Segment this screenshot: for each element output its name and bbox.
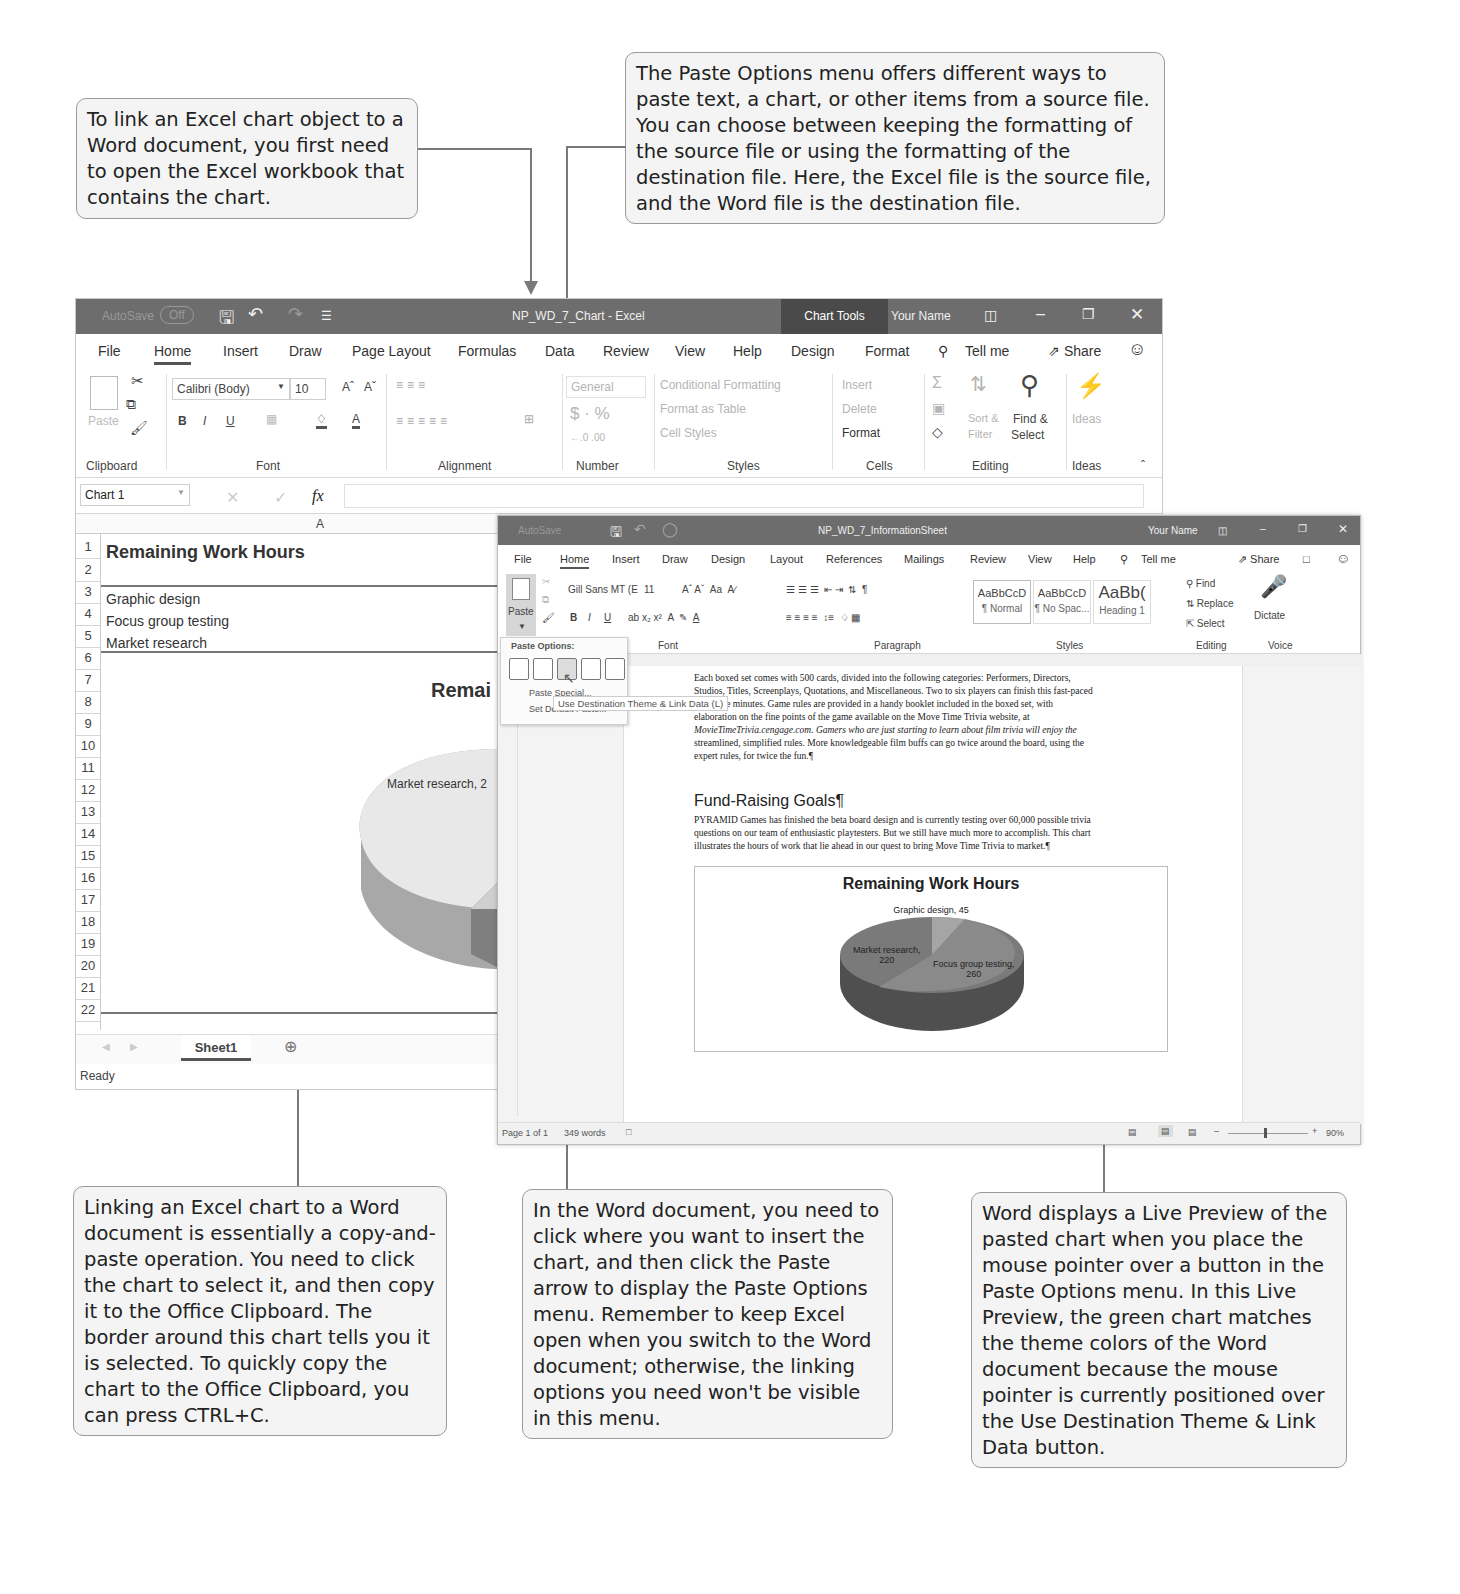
italic-icon[interactable]: I [588, 612, 591, 623]
row-header[interactable]: 4 [76, 606, 100, 621]
number-format-dropdown[interactable]: General [566, 376, 646, 398]
tab-mailings[interactable]: Mailings [904, 553, 944, 565]
select-button[interactable]: ⇱ Select [1186, 618, 1225, 629]
autosave-toggle[interactable]: Off [160, 306, 194, 324]
ribbon-display-icon[interactable]: ◫ [984, 307, 997, 323]
save-icon[interactable]: 🖫 [610, 521, 622, 545]
tab-file[interactable]: File [98, 343, 121, 359]
sort-filter-button[interactable]: Sort & [968, 412, 999, 424]
redo-icon[interactable]: ↷ [288, 303, 303, 325]
name-box[interactable]: Chart 1▼ [80, 484, 190, 506]
format-cells-button[interactable]: Format [842, 426, 880, 440]
row-header[interactable]: 22 [76, 1002, 100, 1017]
insert-function-icon[interactable]: fx [312, 487, 324, 505]
tab-design[interactable]: Design [711, 553, 745, 565]
underline-icon[interactable]: U [226, 414, 235, 428]
decrease-font-icon[interactable]: Aˇ [364, 380, 376, 394]
cell-a3[interactable]: Graphic design [106, 591, 200, 607]
tab-draw[interactable]: Draw [662, 553, 688, 565]
tab-design[interactable]: Design [791, 343, 835, 359]
customize-qat-icon[interactable]: ☰ [321, 309, 332, 323]
row-header[interactable]: 7 [76, 672, 100, 687]
sort-filter-button-2[interactable]: Filter [968, 428, 992, 440]
row-header[interactable]: 12 [76, 782, 100, 797]
sheet-tab-sheet1[interactable]: Sheet1 [181, 1035, 251, 1061]
fill-icon[interactable]: ▣ [932, 400, 945, 416]
row-header[interactable]: 17 [76, 892, 100, 907]
tab-review[interactable]: Review [970, 553, 1006, 565]
borders-icon[interactable]: ▦ [266, 412, 277, 426]
style-no-spacing[interactable]: AaBbCcD¶ No Spac... [1033, 580, 1091, 624]
style-heading-1[interactable]: AaBb(Heading 1 [1093, 580, 1151, 624]
comments-icon[interactable]: □ [1303, 553, 1310, 565]
keep-source-formatting-icon[interactable] [509, 658, 529, 680]
smiley-feedback-icon[interactable]: ☺ [1128, 339, 1146, 360]
bold-icon[interactable]: B [570, 612, 577, 623]
tab-home[interactable]: Home [154, 343, 191, 365]
undo-icon[interactable]: ↶ [634, 521, 646, 537]
row-header[interactable]: 1 [76, 539, 100, 554]
tab-view[interactable]: View [1028, 553, 1052, 565]
read-mode-icon[interactable]: ▤ [1128, 1127, 1137, 1137]
tell-me-box[interactable]: Tell me [965, 343, 1009, 359]
paste-icon[interactable] [90, 376, 118, 410]
font-color-icon[interactable]: A [352, 412, 360, 429]
formula-input[interactable] [344, 484, 1144, 508]
zoom-slider-thumb[interactable] [1264, 1128, 1267, 1138]
tab-insert[interactable]: Insert [223, 343, 258, 359]
close-icon[interactable]: ✕ [1338, 522, 1348, 536]
currency-icon[interactable]: $ · % [570, 404, 610, 424]
row-header[interactable]: 6 [76, 650, 100, 665]
new-sheet-icon[interactable]: ⊕ [284, 1037, 297, 1056]
format-painter-icon[interactable]: 🖌 [542, 612, 555, 623]
row-header[interactable]: 3 [76, 584, 100, 599]
copy-icon[interactable]: ⧉ [126, 396, 136, 413]
enter-icon[interactable]: ✓ [274, 488, 287, 507]
find-select-button-2[interactable]: Select [1011, 428, 1044, 442]
fill-color-icon[interactable]: ♢ [316, 412, 327, 429]
row-header[interactable]: 16 [76, 870, 100, 885]
tab-review[interactable]: Review [603, 343, 649, 359]
cut-icon[interactable]: ✂ [542, 576, 550, 587]
ribbon-display-icon[interactable]: ◫ [1218, 525, 1227, 536]
row-header[interactable]: 11 [76, 760, 100, 775]
replace-button[interactable]: ⇅ Replace [1186, 598, 1233, 609]
font-tools-icons[interactable]: Aˆ Aˇ Aa A∕ [682, 584, 736, 595]
bold-icon[interactable]: B [178, 414, 187, 428]
excel-chart-object[interactable]: Remai Market research, 2 [101, 659, 501, 1014]
page-count[interactable]: Page 1 of 1 [502, 1128, 548, 1138]
picture-icon[interactable] [605, 658, 625, 680]
undo-icon[interactable]: ↶ [248, 303, 263, 325]
paste-button[interactable]: Paste ▼ [506, 574, 536, 636]
cell-a4[interactable]: Focus group testing [106, 613, 229, 629]
word-count[interactable]: 349 words [564, 1128, 606, 1138]
row-header[interactable]: 20 [76, 958, 100, 973]
print-layout-icon[interactable]: ▤ [1158, 1125, 1173, 1137]
italic-icon[interactable]: I [203, 414, 206, 428]
row-header[interactable]: 18 [76, 914, 100, 929]
clear-icon[interactable]: ◇ [932, 424, 943, 440]
tell-me-box[interactable]: Tell me [1141, 553, 1176, 565]
delete-cells-button[interactable]: Delete [842, 402, 877, 416]
tab-format[interactable]: Format [865, 343, 909, 359]
user-name[interactable]: Your Name [891, 309, 951, 323]
share-button[interactable]: ⇗ Share [1048, 343, 1101, 359]
font-name-dropdown[interactable]: Gill Sans MT (E [568, 584, 638, 595]
web-layout-icon[interactable]: ▤ [1188, 1127, 1197, 1137]
font-size-dropdown[interactable]: 10 [290, 378, 326, 400]
cut-icon[interactable]: ✂ [131, 372, 144, 390]
row-header[interactable]: 9 [76, 716, 100, 731]
zoom-level[interactable]: 90% [1326, 1128, 1344, 1138]
cancel-icon[interactable]: ✕ [226, 488, 239, 507]
paste-button[interactable]: Paste [88, 414, 119, 428]
insert-cells-button[interactable]: Insert [842, 378, 872, 392]
format-painter-icon[interactable]: 🖌 [130, 420, 148, 436]
text-effects-icons[interactable]: ab x₂ x² A ✎ A [628, 612, 699, 623]
scroll-sheets-left-icon[interactable]: ◀ [102, 1041, 110, 1052]
cell-a1[interactable]: Remaining Work Hours [106, 542, 305, 563]
tab-help[interactable]: Help [733, 343, 762, 359]
tab-layout[interactable]: Layout [770, 553, 803, 565]
find-select-button[interactable]: Find & [1013, 412, 1048, 426]
tab-draw[interactable]: Draw [289, 343, 322, 359]
row-header[interactable]: 10 [76, 738, 100, 753]
